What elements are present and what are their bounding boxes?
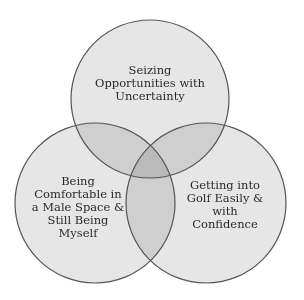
label-seizing-opportunities: Seizing Opportunities with Uncertainty [95,64,205,103]
venn-canvas [0,0,304,300]
label-comfortable-male-space: Being Comfortable in a Male Space & Stil… [32,175,125,240]
label-golf-confidence: Getting into Golf Easily & with Confiden… [187,179,264,231]
